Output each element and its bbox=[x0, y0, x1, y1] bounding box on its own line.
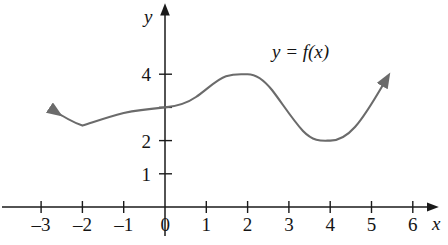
curve-equation-label: y = f(x) bbox=[272, 42, 329, 61]
x-tick-label-3: 3 bbox=[279, 215, 299, 234]
y-axis-label: y bbox=[144, 7, 152, 26]
y-tick-label-1: 1 bbox=[131, 165, 151, 184]
x-axis-label: x bbox=[432, 214, 440, 233]
x-tick-label--3: –3 bbox=[25, 215, 57, 234]
x-tick-label-2: 2 bbox=[238, 215, 258, 234]
y-tick-label-4: 4 bbox=[131, 65, 151, 84]
x-tick-label-0: 0 bbox=[155, 215, 175, 234]
coordinate-plane bbox=[0, 0, 448, 245]
x-tick-label-4: 4 bbox=[320, 215, 340, 234]
y-tick-label-2: 2 bbox=[131, 132, 151, 151]
x-tick-label--1: –1 bbox=[108, 215, 140, 234]
x-tick-label-6: 6 bbox=[403, 215, 423, 234]
x-tick-label-1: 1 bbox=[196, 215, 216, 234]
x-tick-label--2: –2 bbox=[66, 215, 98, 234]
function-curve bbox=[52, 74, 384, 141]
graph-figure: –3 –2 –1 0 1 2 3 4 5 6 1 2 4 y x y = f(x… bbox=[0, 0, 448, 245]
x-tick-label-5: 5 bbox=[362, 215, 382, 234]
